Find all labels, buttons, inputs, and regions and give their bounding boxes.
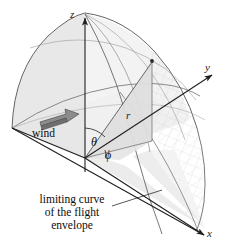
caption-line-1: limiting curve	[16, 193, 128, 206]
envelope-point-marker	[150, 59, 154, 63]
radius-label: r	[126, 110, 130, 122]
caption-line-3: envelope	[16, 219, 128, 232]
y-axis-label: y	[205, 62, 210, 74]
theta-angle-label: θ	[91, 136, 97, 149]
wind-label: wind	[32, 127, 55, 139]
phi-angle-label: ϕ	[105, 149, 111, 162]
flight-envelope-diagram: z y x r θ ϕ wind limiting curve of the f…	[0, 0, 229, 251]
caption-line-2: of the flight	[16, 206, 128, 219]
z-axis-label: z	[70, 9, 74, 21]
x-axis-label: x	[207, 228, 212, 240]
limiting-curve-caption: limiting curve of the flight envelope	[16, 193, 128, 232]
